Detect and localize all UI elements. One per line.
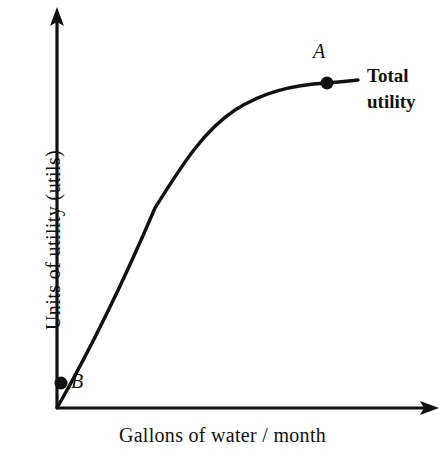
horizontal-axis [57,401,439,415]
curve-label: Total utility [367,63,416,115]
point-b-label: B [71,371,83,391]
y-axis-label: Units of utility (utils) [38,0,68,330]
x-axis-label: Gallons of water / month [0,424,445,447]
total-utility-chart: Units of utility (utils) Gallons of wate… [0,0,445,455]
data-point-a-marker [321,77,334,90]
total-utility-curve [57,80,358,408]
curve-label-line-1: Total [367,63,416,89]
curve-label-line-2: utility [367,89,416,115]
point-a-label: A [313,41,325,61]
data-point-b-marker [55,377,68,390]
